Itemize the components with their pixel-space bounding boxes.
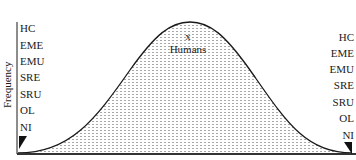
y-axis-label: Frequency — [1, 61, 13, 108]
right-scale-label: OL — [339, 112, 354, 124]
left-scale-label: EME — [20, 39, 44, 51]
left-scale-label: OL — [20, 104, 35, 116]
right-scale-label: EME — [331, 47, 355, 59]
left-scale-label: EMU — [20, 55, 45, 67]
right-scale-label: NI — [342, 129, 354, 141]
left-scale-label: SRE — [20, 71, 40, 83]
left-scale-label: HC — [20, 22, 35, 34]
right-scale-label: SRE — [334, 79, 354, 91]
peak-label: Humans — [170, 43, 207, 55]
left-scale: HC EME EMU SRE SRU OL NI — [20, 22, 45, 133]
left-triangle-marker-icon — [19, 136, 27, 149]
bell-curve-diagram: Frequency HC EME EMU SRE SRU OL NI HC EM… — [0, 0, 356, 160]
left-scale-label: NI — [20, 121, 32, 133]
peak-marker: x — [185, 30, 191, 42]
right-scale-label: EMU — [330, 63, 355, 75]
left-scale-label: SRU — [20, 88, 41, 100]
right-scale-label: HC — [339, 31, 354, 43]
right-scale-label: SRU — [333, 96, 354, 108]
right-scale: HC EME EMU SRE SRU OL NI — [330, 31, 355, 141]
